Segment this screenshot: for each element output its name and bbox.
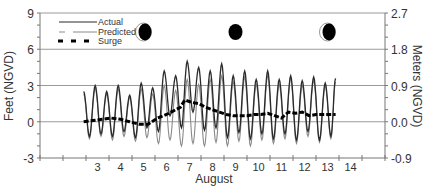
left-y-tick-label: -3 <box>23 152 34 166</box>
moon-shaded-icon <box>139 24 152 41</box>
new-moon-icon <box>229 24 243 40</box>
x-tick-label: 11 <box>276 161 287 173</box>
right-y-tick-label: 2.7 <box>391 7 408 21</box>
left-y-tick-label: 0 <box>27 116 34 130</box>
legend-actual-label: Actual <box>98 17 123 27</box>
x-tick-label: 3 <box>94 161 100 173</box>
legend: Actual Predicted Surge <box>58 17 136 46</box>
x-tick-label: 10 <box>252 161 264 173</box>
moon-phase-icons <box>136 23 336 41</box>
right-y-tick-label: 1.8 <box>391 43 408 57</box>
right-y-tick-label: -0.9 <box>391 152 412 166</box>
moon-shaded-icon <box>323 24 336 41</box>
x-tick-label: 13 <box>321 161 333 173</box>
right-y-tick-label: 0.0 <box>391 116 408 130</box>
legend-surge-label: Surge <box>98 36 122 46</box>
left-y-axis-title: Feet (NGVD) <box>2 51 16 121</box>
x-tick-label: 12 <box>298 161 310 173</box>
x-tick-label: 4 <box>117 161 123 173</box>
x-tick-label: 7 <box>186 161 192 173</box>
left-y-tick-label: 9 <box>27 7 34 21</box>
left-y-tick-label: 3 <box>27 80 34 94</box>
right-y-ticks: -0.90.00.91.82.7 <box>391 7 412 166</box>
series-actual-line <box>84 61 336 140</box>
tide-chart: -30369 -0.90.00.91.82.7 3456789101112131… <box>0 0 429 193</box>
right-y-tick-label: 0.9 <box>391 80 408 94</box>
left-y-ticks: -30369 <box>23 7 34 166</box>
x-tick-label: 5 <box>140 161 146 173</box>
left-y-tick-label: 6 <box>27 43 34 57</box>
x-axis-title: August <box>195 172 233 186</box>
x-tick-label: 9 <box>232 161 238 173</box>
x-tick-label: 6 <box>163 161 169 173</box>
x-tick-label: 14 <box>344 161 356 173</box>
right-y-axis-title: Meters (NGVD) <box>410 45 424 128</box>
data-series <box>84 61 336 146</box>
